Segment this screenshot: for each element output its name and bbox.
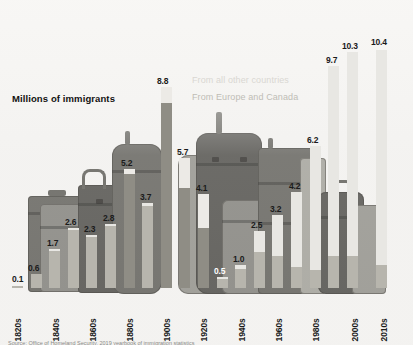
- x-axis-label-1940s: 1940s: [237, 318, 246, 341]
- bar-segment-euro-1960s: [272, 256, 283, 288]
- bar-value-1910s: 5.7: [177, 148, 188, 157]
- bar-value-1930s: 0.5: [214, 267, 225, 276]
- bar-segment-euro-1820s: [12, 286, 23, 288]
- bar-value-1880s: 5.2: [121, 159, 132, 168]
- bar-segment-other-1990s: [328, 66, 339, 256]
- bar-segment-other-1960s: [272, 215, 283, 256]
- bar-value-1820s: 0.1: [12, 275, 23, 284]
- bar-value-1990s: 9.7: [326, 56, 337, 65]
- bar-1910s[interactable]: [179, 158, 190, 288]
- bar-segment-euro-1970s: [291, 267, 302, 288]
- bar-segment-other-1980s: [310, 146, 321, 270]
- bar-1890s[interactable]: [142, 203, 153, 288]
- bar-1900s[interactable]: [161, 87, 172, 288]
- bar-value-1920s: 4.1: [196, 184, 207, 193]
- bar-segment-euro-1980s: [310, 270, 321, 288]
- bar-value-1860s: 2.3: [84, 225, 95, 234]
- bar-1960s[interactable]: [272, 215, 283, 288]
- bar-segment-other-1920s: [198, 194, 209, 228]
- bar-1930s[interactable]: [217, 277, 228, 288]
- bar-value-1950s: 2.5: [251, 221, 262, 230]
- bar-value-1970s: 4.2: [289, 182, 300, 191]
- bar-1820s[interactable]: [12, 286, 23, 288]
- bar-segment-euro-1840s: [49, 251, 60, 288]
- bar-segment-other-1910s: [179, 158, 190, 188]
- bar-segment-euro-1850s: [68, 230, 79, 288]
- x-axis-label-2000s: 2000s: [350, 318, 359, 341]
- legend-item-europe-canada: From Europe and Canada: [192, 92, 298, 102]
- bar-segment-other-2010s: [376, 50, 387, 265]
- bar-segment-euro-1920s: [198, 228, 209, 288]
- chart-plot-area: Millions of immigrants From all other co…: [0, 0, 413, 345]
- bar-1990s[interactable]: [328, 66, 339, 288]
- bar-value-1830s: 0.6: [28, 264, 39, 273]
- bar-1940s[interactable]: [235, 265, 246, 288]
- bar-value-1870s: 2.8: [103, 214, 114, 223]
- chart-title: Millions of immigrants: [12, 93, 115, 104]
- bar-value-1940s: 1.0: [233, 255, 244, 264]
- bar-value-1840s: 1.7: [47, 239, 58, 248]
- x-axis-label-1840s: 1840s: [51, 318, 60, 341]
- bar-segment-euro-1910s: [179, 188, 190, 288]
- bar-1980s[interactable]: [310, 146, 321, 288]
- bar-2000s[interactable]: [347, 52, 358, 288]
- bar-value-2000s: 10.3: [342, 42, 358, 51]
- bar-segment-euro-1870s: [105, 226, 116, 288]
- bar-1840s[interactable]: [49, 249, 60, 288]
- x-axis-label-1900s: 1900s: [163, 318, 172, 341]
- bar-1950s[interactable]: [254, 231, 265, 288]
- bar-segment-other-1900s: [161, 87, 172, 103]
- bar-1970s[interactable]: [291, 192, 302, 288]
- bar-value-1850s: 2.6: [65, 218, 76, 227]
- x-axis-label-1960s: 1960s: [274, 318, 283, 341]
- bar-1830s[interactable]: [31, 274, 42, 288]
- bar-segment-other-1950s: [254, 231, 265, 252]
- x-axis-label-1880s: 1880s: [125, 318, 134, 341]
- bar-segment-euro-1860s: [86, 237, 97, 288]
- immigration-bar-chart-figure: Millions of immigrants From all other co…: [0, 0, 413, 345]
- bar-value-2010s: 10.4: [371, 38, 387, 47]
- legend-item-all-other-countries: From all other countries: [192, 75, 289, 85]
- bar-1860s[interactable]: [86, 235, 97, 288]
- x-axis-label-1920s: 1920s: [200, 318, 209, 341]
- bar-segment-euro-1940s: [235, 269, 246, 288]
- x-axis-label-2010s: 2010s: [380, 318, 389, 341]
- x-axis-label-1980s: 1980s: [311, 318, 320, 341]
- bar-segment-euro-1900s: [161, 103, 172, 288]
- bar-1920s[interactable]: [198, 194, 209, 288]
- chart-source-note: Source: Office of Homeland Security, 201…: [8, 340, 195, 345]
- bar-segment-euro-1890s: [142, 206, 153, 288]
- bar-value-1980s: 6.2: [307, 136, 318, 145]
- bar-segment-euro-1950s: [254, 252, 265, 288]
- bar-1880s[interactable]: [124, 169, 135, 288]
- bar-2010s[interactable]: [376, 50, 387, 288]
- bar-value-1960s: 3.2: [270, 205, 281, 214]
- x-axis-label-1860s: 1860s: [88, 318, 97, 341]
- bar-segment-euro-1930s: [217, 279, 228, 288]
- x-axis-label-1820s: 1820s: [14, 318, 23, 341]
- bar-1870s[interactable]: [105, 224, 116, 288]
- bar-segment-euro-1830s: [31, 274, 42, 288]
- bar-value-1890s: 3.7: [140, 193, 151, 202]
- bar-segment-other-2000s: [347, 52, 358, 256]
- bar-segment-euro-1990s: [328, 256, 339, 288]
- bar-segment-euro-2000s: [347, 256, 358, 288]
- bar-1850s[interactable]: [68, 228, 79, 288]
- bar-value-1900s: 8.8: [157, 77, 168, 86]
- bar-segment-euro-2010s: [376, 265, 387, 288]
- bar-segment-other-1970s: [291, 192, 302, 267]
- bar-segment-euro-1880s: [124, 174, 135, 288]
